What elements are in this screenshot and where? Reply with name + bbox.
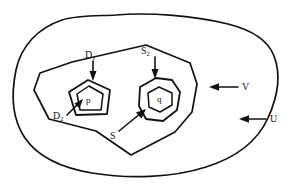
region-boundary-U	[13, 14, 278, 177]
label-S2-text: S	[141, 45, 147, 56]
label-S2-sub: 2	[147, 50, 150, 57]
label-D1-sub: 1	[92, 54, 95, 61]
label-V: V	[242, 82, 249, 92]
label-S2: S2	[141, 46, 150, 56]
label-U: U	[270, 114, 277, 124]
label-V-text: V	[242, 81, 249, 92]
label-D2-sub: 2	[60, 115, 63, 122]
pointer-U	[239, 115, 266, 123]
point-label-p: p	[86, 96, 91, 105]
label-U-text: U	[270, 113, 277, 124]
point-label-q: q	[157, 95, 162, 104]
pointer-S2	[152, 57, 159, 79]
label-D2: D2	[53, 111, 63, 121]
label-S: S	[110, 131, 116, 141]
pointer-V	[209, 83, 238, 91]
figure-canvas: D1 D2 S2 S V U p q	[0, 0, 294, 189]
region-diagram-svg	[0, 0, 294, 189]
pointer-D1	[90, 61, 97, 81]
label-D1: D1	[85, 50, 95, 60]
pointer-S	[119, 109, 146, 131]
label-S-text: S	[110, 130, 116, 141]
